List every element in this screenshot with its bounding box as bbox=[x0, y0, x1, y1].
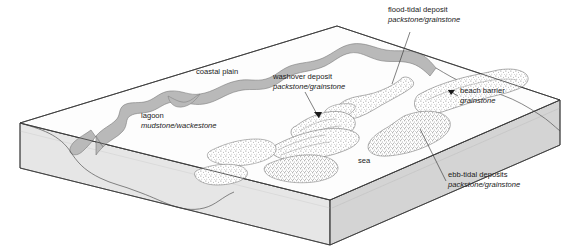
label-washover-deposit-line2: packstone/grainstone bbox=[272, 82, 345, 91]
label-beach-barrier-line2: grainstone bbox=[460, 96, 495, 105]
block-diagram-canvas: coastal plain lagoon mudstone/wackestone… bbox=[0, 0, 576, 252]
label-flood-tidal-deposit-line1: flood-tidal deposit bbox=[388, 5, 448, 14]
label-lagoon-line1: lagoon bbox=[141, 111, 164, 120]
label-sea-line1: sea bbox=[358, 156, 371, 165]
label-beach-barrier-line1: beach barrier bbox=[460, 86, 505, 95]
label-washover-deposit-line1: washover deposit bbox=[272, 72, 333, 81]
label-coastal-plain-line1: coastal plain bbox=[196, 67, 238, 76]
label-flood-tidal-deposit-line2: packstone/grainstone bbox=[387, 15, 460, 24]
label-lagoon-line2: mudstone/wackestone bbox=[141, 121, 217, 130]
block-diagram-figure: coastal plain lagoon mudstone/wackestone… bbox=[0, 0, 576, 252]
label-ebb-tidal-deposits-line2: packstone/grainstone bbox=[447, 180, 520, 189]
